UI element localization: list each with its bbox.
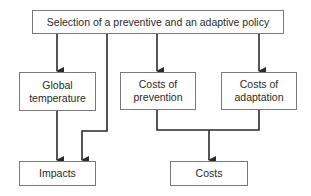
node-costs: Costs [170, 161, 248, 186]
node-global-temperature: Global temperature [19, 72, 96, 111]
node-costs-of-adaptation: Costs of adaptation [221, 72, 297, 110]
node-adaptation-line1: Costs of [240, 78, 279, 91]
node-prevention-line1: Costs of [139, 78, 178, 91]
node-temperature-line2: temperature [29, 92, 86, 105]
node-policy-label: Selection of a preventive and an adaptiv… [47, 16, 269, 29]
node-policy: Selection of a preventive and an adaptiv… [32, 10, 284, 34]
node-adaptation-line2: adaptation [234, 91, 283, 104]
node-impacts-label: Impacts [39, 167, 76, 180]
node-impacts: Impacts [19, 161, 96, 186]
node-temperature-line1: Global [42, 79, 72, 92]
node-costs-label: Costs [196, 167, 223, 180]
node-costs-of-prevention: Costs of prevention [120, 72, 196, 110]
line-costs-merge [157, 110, 259, 130]
node-prevention-line2: prevention [133, 91, 182, 104]
